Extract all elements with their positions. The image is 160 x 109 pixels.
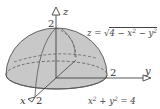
radicand-part1: 4 − x [109,28,132,38]
z-tick-label: 2 [48,19,54,29]
y-tick-label: 2 [110,68,116,78]
y-axis-label: y [145,66,151,76]
sqrt-radicand: 4 − x2 − y2 [109,27,157,38]
boundary-equation: x2 + y2 = 4 [88,96,136,106]
surface-eq-lhs: z = [87,28,104,38]
surface-equation: z = √4 − x2 − y2 [87,28,157,38]
x-tick-label: 2 [36,96,42,106]
x-axis-arrow-icon [28,97,35,102]
x-axis-label: x [20,96,26,106]
boundary-eq-rhs: = 4 [118,96,136,106]
exponent-2: 2 [153,27,157,34]
z-axis-arrow-icon [52,7,60,15]
hemisphere-diagram [0,0,160,109]
boundary-eq-y: + y [97,96,114,106]
z-axis-label: z [63,7,68,17]
radicand-part2: − y [136,28,153,38]
